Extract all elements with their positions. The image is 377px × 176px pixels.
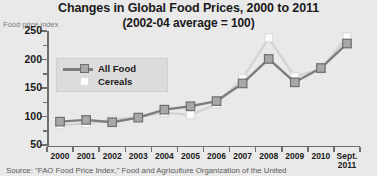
- x-tick: [229, 147, 231, 152]
- data-point-marker: [212, 97, 221, 106]
- x-tick: [177, 147, 179, 152]
- data-point-marker: [264, 55, 273, 64]
- chart-legend: All Food Cereals: [56, 58, 168, 92]
- x-tick: [333, 147, 335, 152]
- data-point-marker: [291, 78, 300, 87]
- x-tick: [125, 147, 127, 152]
- x-tick-label: 2003: [125, 152, 151, 161]
- legend-item-all-food: All Food: [63, 62, 136, 75]
- x-tick: [359, 147, 361, 152]
- x-tick-label: 2006: [204, 152, 230, 161]
- all-food-swatch-icon: [63, 62, 93, 75]
- x-tick: [203, 147, 205, 152]
- data-point-marker: [134, 113, 143, 122]
- legend-label-cereals: Cereals: [98, 76, 132, 87]
- data-point-marker: [56, 117, 65, 126]
- x-tick: [98, 147, 100, 152]
- y-tick-label: 250: [2, 24, 42, 36]
- legend-label-all-food: All Food: [98, 63, 136, 74]
- data-point-marker: [82, 116, 91, 125]
- x-tick-label: 2004: [151, 152, 177, 161]
- x-tick: [281, 147, 283, 152]
- source-note: Source: "FAO Food Price Index," Food and…: [6, 166, 377, 175]
- x-tick: [72, 147, 74, 152]
- x-tick-label: 2010: [308, 152, 334, 161]
- x-tick-label: 2001: [73, 152, 99, 161]
- x-tick: [46, 147, 48, 152]
- data-point-marker: [343, 39, 352, 48]
- x-tick: [255, 147, 257, 152]
- y-tick-label: 150: [2, 81, 42, 93]
- cereals-swatch-icon: [63, 75, 93, 88]
- x-tick: [307, 147, 309, 152]
- data-point-marker: [238, 79, 247, 88]
- legend-item-cereals: Cereals: [63, 75, 132, 88]
- y-tick-label: 200: [2, 53, 42, 65]
- x-tick-label: 2002: [99, 152, 125, 161]
- x-tick-label: 2007: [230, 152, 256, 161]
- data-point-marker: [108, 118, 117, 127]
- data-point-marker: [186, 111, 194, 119]
- x-tick: [151, 147, 153, 152]
- chart-title: Changes in Global Food Prices, 2000 to 2…: [0, 1, 377, 15]
- x-tick-label: 2005: [177, 152, 203, 161]
- data-point-marker: [317, 64, 326, 73]
- x-tick-label: 2009: [282, 152, 308, 161]
- y-tick-label: 100: [2, 110, 42, 122]
- x-tick-label: 2000: [47, 152, 73, 161]
- y-tick-label: 50: [2, 138, 42, 150]
- food-price-chart: Changes in Global Food Prices, 2000 to 2…: [0, 0, 377, 176]
- data-point-marker: [186, 102, 195, 111]
- x-tick-label: 2008: [256, 152, 282, 161]
- data-point-marker: [265, 34, 273, 42]
- data-point-marker: [160, 105, 169, 114]
